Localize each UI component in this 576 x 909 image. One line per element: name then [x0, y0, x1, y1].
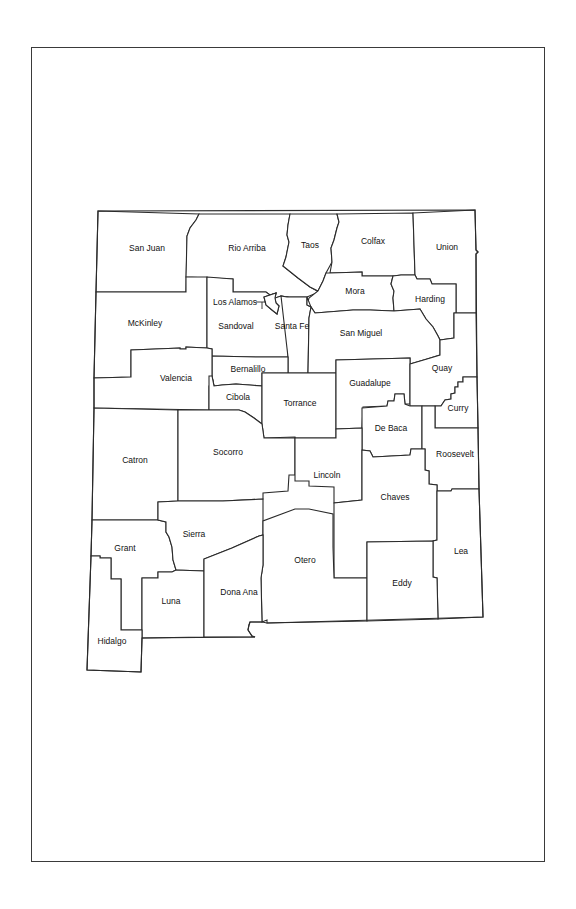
label-curry: Curry: [448, 403, 470, 413]
label-los-alamos: Los Alamos: [213, 297, 257, 307]
label-bernalillo: Bernalillo: [231, 364, 266, 374]
label-guadalupe: Guadalupe: [349, 378, 391, 388]
label-socorro: Socorro: [213, 447, 243, 457]
county-lincoln[interactable]: [295, 428, 362, 503]
label-luna: Luna: [162, 596, 181, 606]
label-cibola: Cibola: [226, 392, 250, 402]
label-roosevelt: Roosevelt: [436, 449, 474, 459]
label-sandoval: Sandoval: [218, 321, 254, 331]
label-de-baca: De Baca: [375, 423, 408, 433]
label-torrance: Torrance: [283, 398, 316, 408]
label-eddy: Eddy: [392, 578, 412, 588]
label-catron: Catron: [122, 455, 148, 465]
label-lea: Lea: [454, 546, 468, 556]
label-union: Union: [436, 242, 458, 252]
label-santa-fe: Santa Fe: [275, 321, 310, 331]
label-rio-arriba: Rio Arriba: [228, 243, 266, 253]
label-valencia: Valencia: [160, 373, 192, 383]
label-san-miguel: San Miguel: [340, 328, 383, 338]
label-harding: Harding: [415, 294, 445, 304]
label-san-juan: San Juan: [129, 243, 165, 253]
label-mora: Mora: [345, 286, 365, 296]
label-dona-ana: Dona Ana: [220, 587, 258, 597]
label-colfax: Colfax: [361, 236, 386, 246]
label-chaves: Chaves: [381, 492, 410, 502]
label-grant: Grant: [114, 543, 136, 553]
label-quay: Quay: [432, 363, 453, 373]
label-otero: Otero: [294, 555, 316, 565]
county-shapes: [87, 210, 483, 672]
nm-county-map: San Juan Rio Arriba Taos Colfax Union Mo…: [0, 0, 576, 909]
label-taos: Taos: [301, 240, 319, 250]
label-sierra: Sierra: [183, 529, 206, 539]
label-lincoln: Lincoln: [314, 470, 341, 480]
label-mckinley: McKinley: [128, 318, 163, 328]
label-hidalgo: Hidalgo: [98, 636, 127, 646]
